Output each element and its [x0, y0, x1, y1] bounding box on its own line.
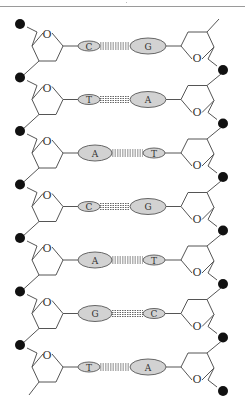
base-pair-row: OCGO: [15, 19, 228, 77]
base-pair-row: OTAO: [15, 340, 228, 396]
base-pair-row: OTAO: [15, 73, 228, 131]
phosphate-left: [15, 19, 25, 29]
base-pair-row: OCGO: [15, 180, 228, 238]
right-ring-oxygen: O: [192, 373, 201, 386]
right-ring-oxygen: O: [192, 213, 201, 226]
base-left-label: T: [86, 363, 92, 373]
right-ring-oxygen: O: [192, 159, 201, 172]
dna-diagram: OCGOOTAOOATOOCGOOATOOGCOOTAO: [0, 0, 245, 413]
base-pair-row: OGCO: [15, 287, 228, 345]
left-ring-oxygen: O: [42, 242, 51, 255]
right-c5-bond: [208, 315, 217, 334]
left-backbone-bond: [22, 222, 39, 238]
base-left-label: A: [91, 149, 99, 159]
base-right-label: G: [144, 202, 151, 212]
right-c5-bond: [208, 261, 217, 280]
left-ring-oxygen: O: [42, 28, 51, 41]
phosphate-right: [218, 172, 228, 182]
right-backbone-bond: [207, 74, 221, 86]
right-backbone-bond: [207, 288, 221, 300]
left-backbone-bond: [22, 115, 39, 131]
right-backbone-bond: [207, 181, 221, 193]
phosphate-right: [218, 119, 228, 129]
left-ring-oxygen: O: [42, 349, 51, 362]
base-pair-row: OATO: [15, 126, 228, 184]
base-left-label: A: [91, 256, 99, 266]
phosphate-right: [218, 279, 228, 289]
left-c5-bond: [27, 27, 37, 46]
base-right-label: C: [151, 309, 158, 319]
base-right-label: G: [144, 42, 151, 52]
base-right-label: A: [144, 95, 152, 105]
left-backbone-bond: [22, 329, 39, 345]
phosphate-left: [15, 287, 25, 297]
left-c5-bond: [27, 188, 37, 207]
base-right-label: T: [151, 149, 157, 159]
left-terminal-bond: [29, 382, 39, 395]
right-ring-oxygen: O: [192, 320, 201, 333]
left-ring-oxygen: O: [42, 296, 51, 309]
phosphate-left: [15, 73, 25, 83]
right-ring-oxygen: O: [192, 106, 201, 119]
left-backbone-bond: [22, 275, 39, 291]
right-ring-oxygen: O: [192, 52, 201, 65]
left-ring-oxygen: O: [42, 135, 51, 148]
right-c5-bond: [208, 154, 217, 173]
left-c5-bond: [27, 81, 37, 100]
left-c5-bond: [27, 295, 37, 314]
base-pair-row: OATO: [15, 233, 228, 291]
phosphate-right: [218, 226, 228, 236]
left-c5-bond: [27, 241, 37, 260]
phosphate-left: [15, 180, 25, 190]
right-ring-oxygen: O: [192, 266, 201, 279]
right-c5-bond: [208, 208, 217, 227]
right-c5-bond: [208, 47, 217, 66]
left-c5-bond: [27, 134, 37, 153]
right-c5-bond: [208, 368, 217, 387]
phosphate-right: [218, 333, 228, 343]
base-left-label: G: [91, 309, 98, 319]
right-c5-bond: [208, 101, 217, 120]
left-ring-oxygen: O: [42, 189, 51, 202]
right-backbone-bond: [207, 235, 221, 247]
left-c5-bond: [27, 348, 37, 367]
phosphate-left: [15, 126, 25, 136]
right-backbone-bond: [207, 342, 221, 354]
phosphate-right: [218, 386, 228, 396]
right-backbone-bond: [207, 128, 221, 140]
left-ring-oxygen: O: [42, 82, 51, 95]
base-right-label: T: [151, 256, 157, 266]
left-backbone-bond: [22, 168, 39, 184]
phosphate-right: [218, 65, 228, 75]
base-right-label: A: [144, 363, 152, 373]
base-left-label: T: [86, 95, 92, 105]
left-backbone-bond: [22, 61, 39, 77]
phosphate-left: [15, 340, 25, 350]
base-left-label: C: [86, 202, 93, 212]
phosphate-left: [15, 233, 25, 243]
right-terminal-bond: [207, 19, 219, 32]
base-left-label: C: [86, 42, 93, 52]
